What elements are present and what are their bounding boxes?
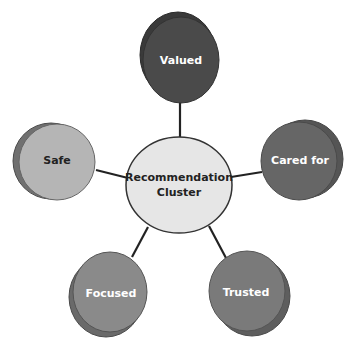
- node-label: Safe: [43, 154, 71, 167]
- node-safe: Safe: [13, 123, 95, 200]
- connector-trusted: [209, 226, 226, 258]
- hub-spoke-diagram: Valued Cared for Trusted Focused Safe Re…: [0, 0, 357, 351]
- node-focused: Focused: [69, 252, 147, 337]
- connector-safe: [96, 170, 128, 178]
- node-label: Cared for: [271, 154, 329, 167]
- connector-cared-for: [231, 172, 262, 177]
- node-label: Valued: [160, 54, 202, 67]
- node-cared-for: Cared for: [261, 120, 343, 200]
- center-label-line1: Recommendation: [125, 171, 233, 184]
- node-label: Trusted: [223, 286, 270, 299]
- node-valued: Valued: [140, 12, 219, 103]
- center-node: Recommendation Cluster: [125, 137, 233, 233]
- center-label-line2: Cluster: [157, 186, 202, 199]
- node-label: Focused: [86, 287, 137, 300]
- node-trusted: Trusted: [209, 251, 290, 336]
- connector-focused: [132, 227, 148, 257]
